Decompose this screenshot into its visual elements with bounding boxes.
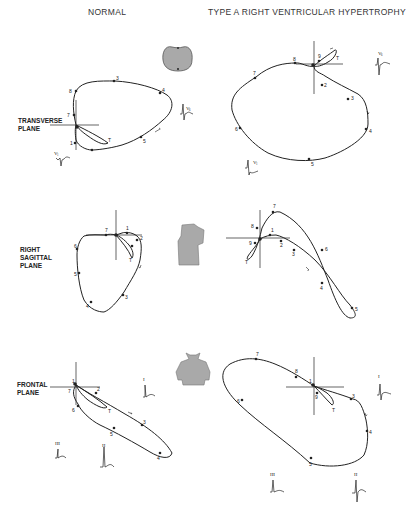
svg-text:3: 3 xyxy=(352,393,355,399)
svg-text:7: 7 xyxy=(253,70,256,76)
svg-text:8: 8 xyxy=(251,223,254,229)
svg-text:2: 2 xyxy=(280,242,283,248)
torso-front-view-icon xyxy=(176,353,210,385)
ecg-lead-v1-normal: V1 xyxy=(54,151,70,166)
ecg-lead-v6-rvh: V6 xyxy=(375,51,390,75)
svg-text:4: 4 xyxy=(86,303,89,309)
svg-text:8: 8 xyxy=(293,56,296,62)
svg-text:2: 2 xyxy=(140,235,143,241)
rvh-sagittal-loop: 7 8 9 1 2 3 6 4 5 T xyxy=(226,203,358,318)
svg-text:5: 5 xyxy=(309,461,312,467)
svg-text:1: 1 xyxy=(126,225,129,231)
ecg-lead-iii-rvh: III xyxy=(270,472,284,492)
svg-text:3: 3 xyxy=(125,294,128,300)
ecg-lead-ii-normal: II xyxy=(100,443,114,467)
svg-text:II: II xyxy=(354,472,358,477)
svg-text:T: T xyxy=(332,407,335,413)
svg-text:4: 4 xyxy=(369,429,372,435)
torso-side-view-icon xyxy=(178,224,204,265)
svg-text:7: 7 xyxy=(256,351,259,357)
svg-text:4: 4 xyxy=(320,285,323,291)
svg-text:T: T xyxy=(108,137,111,143)
svg-text:2: 2 xyxy=(97,386,100,392)
svg-text:3: 3 xyxy=(351,95,354,101)
svg-text:5: 5 xyxy=(110,431,113,437)
svg-text:1: 1 xyxy=(70,140,73,146)
svg-text:5: 5 xyxy=(74,271,77,277)
ecg-lead-v6-normal: V6 xyxy=(180,104,193,120)
svg-text:6: 6 xyxy=(235,126,238,132)
svg-text:T: T xyxy=(129,257,132,263)
svg-text:8: 8 xyxy=(295,368,298,374)
svg-text:1: 1 xyxy=(256,162,258,166)
svg-text:7: 7 xyxy=(105,227,108,233)
svg-text:III: III xyxy=(55,441,60,446)
svg-text:9: 9 xyxy=(318,53,321,59)
svg-text:6: 6 xyxy=(237,398,240,404)
svg-text:3: 3 xyxy=(116,75,119,81)
svg-text:6: 6 xyxy=(74,243,77,249)
svg-text:4: 4 xyxy=(369,128,372,134)
svg-text:6: 6 xyxy=(189,108,191,112)
ecg-lead-ii-rvh: II xyxy=(352,472,366,502)
normal-sagittal-loop: 7 6 5 4 3 2 1 T xyxy=(74,210,143,312)
svg-text:9: 9 xyxy=(315,394,318,400)
svg-text:T: T xyxy=(336,55,339,61)
svg-text:I: I xyxy=(143,377,145,382)
svg-text:7: 7 xyxy=(67,112,70,118)
svg-text:5: 5 xyxy=(311,161,314,167)
svg-text:9: 9 xyxy=(249,240,252,246)
svg-text:7: 7 xyxy=(68,388,71,394)
svg-text:4: 4 xyxy=(157,455,160,461)
svg-text:5: 5 xyxy=(355,306,358,312)
svg-text:1: 1 xyxy=(271,227,274,233)
svg-text:3: 3 xyxy=(292,251,295,257)
svg-text:5: 5 xyxy=(143,138,146,144)
rvh-frontal-loop: 7 8 6 5 4 3 1 9 T xyxy=(223,351,372,467)
svg-text:7: 7 xyxy=(273,203,276,209)
ecg-lead-i-rvh: I xyxy=(377,374,391,400)
svg-text:4: 4 xyxy=(162,87,165,93)
svg-text:1: 1 xyxy=(57,153,59,157)
rvh-transverse-loop: 8 7 6 5 4 3 2 9 T xyxy=(232,41,372,167)
svg-text:T: T xyxy=(245,259,248,265)
svg-text:T: T xyxy=(108,408,111,414)
svg-text:6: 6 xyxy=(325,246,328,252)
ecg-lead-v1-rvh: V1 xyxy=(245,160,258,175)
normal-transverse-loop: 8 3 4 5 7 1 T xyxy=(50,75,172,151)
ecg-lead-i-normal: I xyxy=(143,377,155,397)
svg-text:1: 1 xyxy=(72,378,75,384)
svg-text:1: 1 xyxy=(309,378,312,384)
svg-text:6: 6 xyxy=(381,53,383,57)
svg-text:II: II xyxy=(102,443,106,448)
ecg-lead-iii-normal: III xyxy=(55,441,66,458)
svg-text:III: III xyxy=(270,472,275,477)
torso-cross-section-icon xyxy=(163,47,192,71)
svg-text:I: I xyxy=(378,374,380,379)
normal-frontal-loop: 1 2 3 4 5 6 7 T xyxy=(50,362,172,461)
svg-text:8: 8 xyxy=(69,88,72,94)
svg-text:3: 3 xyxy=(143,419,146,425)
svg-text:2: 2 xyxy=(324,82,327,88)
svg-text:6: 6 xyxy=(72,407,75,413)
